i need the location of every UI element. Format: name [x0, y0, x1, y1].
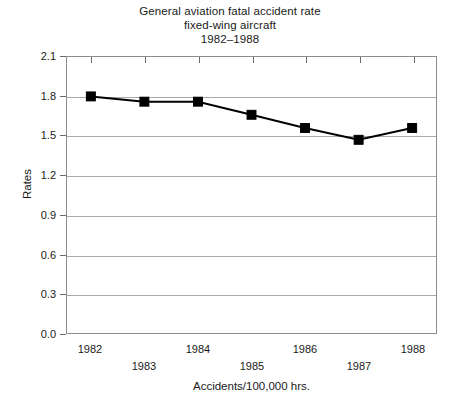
- data-point-marker: [247, 110, 256, 119]
- title-line-2: fixed-wing aircraft: [0, 18, 460, 32]
- title-line-3: 1982–1988: [0, 32, 460, 46]
- x-tick-label: 1986: [275, 344, 335, 355]
- y-tick-label: 0.9: [20, 210, 56, 221]
- y-tick-label: 1.8: [20, 91, 56, 102]
- data-point-marker: [408, 124, 417, 133]
- y-axis-label: Rates: [21, 149, 33, 219]
- x-tick-label: 1984: [168, 344, 228, 355]
- x-tick-label: 1988: [383, 344, 443, 355]
- data-point-marker: [140, 97, 149, 106]
- x-tick-label: 1982: [60, 344, 120, 355]
- series-markers: [86, 92, 416, 144]
- plot-area: [66, 56, 437, 334]
- title-line-1: General aviation fatal accident rate: [0, 4, 460, 18]
- y-tick-label: 0.3: [20, 289, 56, 300]
- data-point-marker: [86, 92, 95, 101]
- y-tick-label: 2.1: [20, 51, 56, 62]
- y-tick-label: 1.2: [20, 170, 56, 181]
- data-point-marker: [194, 97, 203, 106]
- y-tick-label: 0.6: [20, 250, 56, 261]
- chart-figure: General aviation fatal accident rate fix…: [0, 0, 460, 408]
- y-tick-label: 0.0: [20, 329, 56, 340]
- x-tick-label: 1987: [329, 361, 389, 372]
- data-point-marker: [301, 124, 310, 133]
- y-tick-mark: [60, 334, 66, 335]
- x-axis-label: Accidents/100,000 hrs.: [66, 380, 437, 392]
- y-tick-label: 1.5: [20, 130, 56, 141]
- data-point-marker: [354, 135, 363, 144]
- x-tick-label: 1983: [114, 361, 174, 372]
- data-series-svg: [67, 57, 436, 333]
- x-tick-label: 1985: [222, 361, 282, 372]
- chart-title: General aviation fatal accident rate fix…: [0, 4, 460, 46]
